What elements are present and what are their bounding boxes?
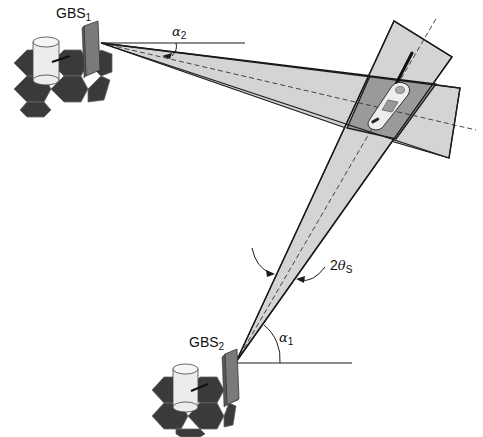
alpha1-subscript: 1 xyxy=(288,336,294,347)
alpha1-symbol: α xyxy=(279,330,288,345)
gbs2-label-name: GBS xyxy=(189,334,219,350)
gbs2-label: GBS2 xyxy=(189,335,224,352)
gbs1-station-icon xyxy=(14,21,112,117)
two-theta-s-prefix: 2 xyxy=(330,257,338,273)
alpha2-subscript: 2 xyxy=(181,30,187,41)
two-theta-s-symbol: θ xyxy=(338,258,346,273)
two-theta-s-subscript: S xyxy=(346,264,353,275)
alpha1-label: α1 xyxy=(279,330,293,347)
two-theta-s-label: 2θS xyxy=(330,258,352,275)
gbs2-station-icon xyxy=(152,349,239,437)
two-theta-right-arrowhead-icon xyxy=(296,276,305,283)
two-theta-left-arc xyxy=(252,248,271,273)
gbs1-label-name: GBS xyxy=(56,5,86,21)
two-theta-left-arrowhead-icon xyxy=(266,270,275,277)
alpha2-label: α2 xyxy=(172,24,186,41)
alpha1-arc xyxy=(264,325,280,363)
gbs1-label: GBS1 xyxy=(56,6,91,23)
alpha2-symbol: α xyxy=(172,24,181,39)
gbs2-label-subscript: 2 xyxy=(219,341,225,352)
localization-diagram xyxy=(0,0,483,437)
gbs1-label-subscript: 1 xyxy=(86,12,92,23)
